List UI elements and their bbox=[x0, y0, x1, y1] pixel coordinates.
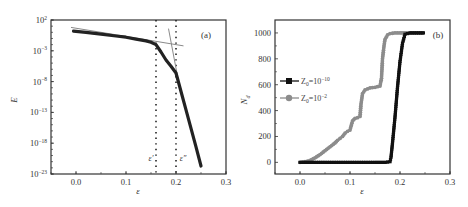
x-tick-label: 0.0 bbox=[295, 177, 306, 187]
legend-item-z0-1e-10: Z0=10−10 bbox=[280, 76, 330, 87]
y-tick-label: 10−13 bbox=[30, 107, 47, 118]
epsilon-double-prime-label: ε″ bbox=[180, 154, 187, 163]
legend-2-eq: =10 bbox=[309, 94, 322, 103]
y-tick-label: 10−8 bbox=[33, 76, 48, 87]
y-tick-label: 10−3 bbox=[33, 45, 48, 56]
y-tick-label: 10−23 bbox=[30, 169, 47, 180]
svg-text:Z0=10−2: Z0=10−2 bbox=[301, 93, 327, 104]
panel-b-legend: Z0=10−10 Z0=10−2 bbox=[280, 76, 330, 104]
svg-text:Nd: Nd bbox=[239, 94, 251, 105]
legend-1-sup: −10 bbox=[321, 76, 330, 82]
panel-b-y-ticks: 02004006008001000 bbox=[254, 28, 278, 167]
panel-a-ylabel: E bbox=[9, 97, 19, 104]
panel-a-xlabel: ε bbox=[136, 186, 140, 196]
panel-b: 0.00.10.20.3 02004006008001000 (b) ε Nd … bbox=[239, 20, 455, 196]
y-tick-label: 800 bbox=[258, 54, 271, 64]
panel-a-series bbox=[74, 31, 202, 166]
y-tick-label: 10−18 bbox=[30, 138, 47, 149]
x-tick-label: 0.2 bbox=[171, 177, 182, 187]
energy-curve bbox=[74, 31, 202, 166]
legend-1-eq: =10 bbox=[309, 77, 322, 86]
panel-b-ylabel: Nd bbox=[239, 94, 251, 105]
x-tick-label: 0.1 bbox=[345, 177, 356, 187]
y-tick-label: 200 bbox=[258, 131, 271, 141]
panel-b-xlabel: ε bbox=[360, 186, 364, 196]
x-tick-label: 0.1 bbox=[121, 177, 132, 187]
figure: 0.00.10.20.3 10210−310−810−1310−1810−23 … bbox=[0, 0, 468, 207]
panel-a-frame bbox=[51, 20, 226, 174]
y-tick-label: 400 bbox=[258, 106, 271, 116]
x-tick-label: 0.2 bbox=[395, 177, 406, 187]
x-tick-label: 0.3 bbox=[221, 177, 232, 187]
ylabel-sub: d bbox=[245, 94, 251, 98]
chart-canvas: 0.00.10.20.3 10210−310−810−1310−1810−23 … bbox=[0, 0, 468, 207]
y-tick-label: 102 bbox=[36, 15, 48, 26]
legend-2-sup: −2 bbox=[321, 93, 327, 99]
panel-b-label: (b) bbox=[433, 30, 444, 40]
panel-b-x-ticks: 0.00.10.20.3 bbox=[275, 171, 455, 187]
panel-a-y-ticks: 10210−310−810−1310−1810−23 bbox=[30, 15, 54, 180]
square-marker bbox=[421, 31, 424, 34]
panel-a-x-ticks: 0.00.10.20.3 bbox=[51, 171, 231, 187]
y-tick-label: 1000 bbox=[254, 28, 271, 38]
x-tick-label: 0.3 bbox=[445, 177, 456, 187]
svg-text:Z0=10−10: Z0=10−10 bbox=[301, 76, 330, 87]
y-tick-label: 0 bbox=[267, 157, 271, 167]
panel-a: 0.00.10.20.3 10210−310−810−1310−1810−23 … bbox=[9, 15, 231, 197]
panel-a-label: (a) bbox=[201, 30, 211, 40]
y-tick-label: 600 bbox=[258, 80, 271, 90]
epsilon-prime-label: ε′ bbox=[149, 154, 154, 163]
legend-item-z0-1e-2: Z0=10−2 bbox=[280, 93, 327, 104]
x-tick-label: 0.0 bbox=[71, 177, 82, 187]
square-marker-icon bbox=[286, 78, 292, 84]
panel-a-fit-lines bbox=[71, 27, 184, 81]
circle-marker-icon bbox=[286, 95, 292, 101]
